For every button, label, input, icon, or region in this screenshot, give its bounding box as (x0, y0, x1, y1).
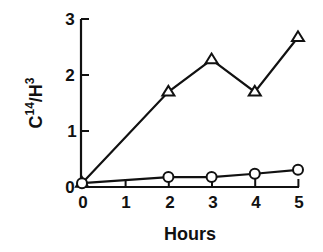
y-tick-label: 2 (65, 66, 74, 85)
y-tick-label: 0 (65, 178, 74, 197)
series-line (82, 170, 298, 183)
circle-marker-icon (293, 165, 303, 175)
x-tick-label: 3 (208, 193, 217, 212)
x-tick-label: 0 (78, 193, 87, 212)
svg-text:C14/H3: C14/H3 (23, 77, 46, 128)
x-tick-label: 1 (121, 193, 130, 212)
triangle-marker-icon (292, 31, 304, 41)
circle-marker-icon (207, 172, 217, 182)
circle-marker-icon (77, 178, 87, 188)
triangle-marker-icon (206, 54, 218, 64)
line-chart: 3 2 1 0 0 1 2 3 4 5 Hours C14/H3 (0, 0, 323, 252)
y-axis-title: C14/H3 (23, 77, 46, 128)
y-tick-label: 3 (65, 10, 74, 29)
x-tick-label: 5 (294, 193, 303, 212)
x-axis-title: Hours (164, 224, 216, 244)
series-circles (77, 165, 303, 188)
circle-marker-icon (163, 172, 173, 182)
x-tick-label: 2 (165, 193, 174, 212)
circle-marker-icon (250, 169, 260, 179)
series-triangles (76, 31, 304, 187)
series-line (82, 37, 298, 183)
x-tick-label: 4 (251, 193, 261, 212)
triangle-marker-icon (162, 86, 174, 96)
x-axis: 0 1 2 3 4 5 (78, 179, 303, 212)
y-tick-label: 1 (67, 122, 76, 141)
y-axis: 3 2 1 0 (65, 10, 89, 197)
series-layer (76, 31, 304, 188)
